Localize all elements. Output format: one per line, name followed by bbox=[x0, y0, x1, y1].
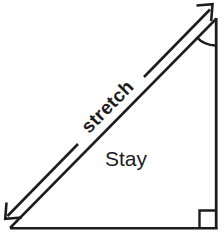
apex-angle-arc-icon bbox=[197, 37, 216, 45]
triangle-hypotenuse-stay-side bbox=[10, 19, 217, 229]
stay-label: Stay bbox=[105, 147, 148, 170]
diagram-canvas: stretch Stay bbox=[0, 0, 224, 235]
right-triangle bbox=[10, 18, 218, 229]
stretch-arrowhead-upper-icon bbox=[197, 4, 213, 21]
right-angle-marker-icon bbox=[200, 211, 217, 228]
stretch-arrow-shaft-upper bbox=[144, 10, 210, 78]
triangle-diagram: stretch Stay bbox=[0, 0, 224, 235]
stretch-arrow-shaft-lower bbox=[8, 144, 79, 216]
